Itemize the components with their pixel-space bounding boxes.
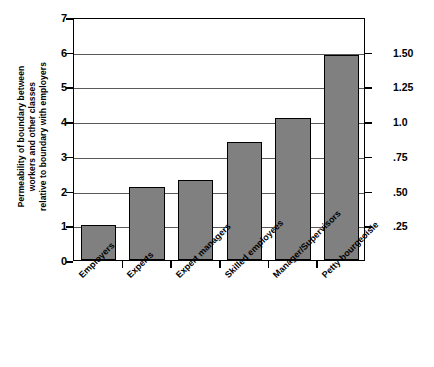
y-axis-left-tick-label: 2 bbox=[45, 186, 67, 197]
y-axis-right-tick-mark bbox=[365, 53, 372, 55]
y-axis-right-tick-mark bbox=[365, 87, 372, 89]
y-axis-left-tick-label: 3 bbox=[45, 151, 67, 162]
x-axis-tick-mark bbox=[170, 261, 172, 268]
y-axis-left-tick-label: 7 bbox=[45, 13, 67, 24]
x-axis-tick-mark bbox=[316, 261, 318, 268]
y-axis-left-tick-mark bbox=[66, 226, 73, 228]
y-axis-right-tick-label: 1.25 bbox=[393, 82, 413, 93]
y-axis-left-tick-label: 5 bbox=[45, 82, 67, 93]
y-axis-right-tick-label: 1.0 bbox=[393, 117, 408, 128]
y-axis-left-tick-mark bbox=[66, 157, 73, 159]
bar-chart: Permeability of boundary between workers… bbox=[0, 0, 434, 367]
y-axis-left-tick-label: 0 bbox=[45, 256, 67, 267]
y-axis-right-tick-mark bbox=[365, 192, 372, 194]
y-axis-title-left: Permeability of boundary between workers… bbox=[16, 17, 49, 257]
y-axis-right-tick-label: .75 bbox=[393, 152, 408, 163]
bar bbox=[324, 55, 359, 260]
y-axis-right-tick-label: .25 bbox=[393, 221, 408, 232]
y-axis-left-tick-label: 4 bbox=[45, 117, 67, 128]
y-axis-right-tick-mark bbox=[365, 122, 372, 124]
x-axis-tick-mark bbox=[268, 261, 270, 268]
y-axis-right-tick-label: 1.50 bbox=[393, 47, 413, 58]
y-axis-left-tick-mark bbox=[66, 53, 73, 55]
y-axis-left-tick-label: 6 bbox=[45, 47, 67, 58]
y-axis-left-tick-mark bbox=[66, 192, 73, 194]
x-axis-tick-mark bbox=[122, 261, 124, 268]
y-axis-right-tick-label: .50 bbox=[393, 186, 408, 197]
y-axis-left-tick-mark bbox=[66, 87, 73, 89]
y-axis-left-tick-mark bbox=[66, 261, 73, 263]
y-axis-left-tick-mark bbox=[66, 18, 73, 20]
x-axis-tick-mark bbox=[219, 261, 221, 268]
y-axis-left-tick-mark bbox=[66, 122, 73, 124]
y-axis-right-tick-mark bbox=[365, 157, 372, 159]
y-axis-left-tick-label: 1 bbox=[45, 221, 67, 232]
